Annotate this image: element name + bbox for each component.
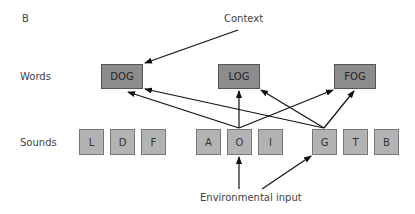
sound-node-o: O xyxy=(227,129,252,155)
panel-label: B xyxy=(22,13,29,24)
connection-arrows xyxy=(0,0,415,214)
row-label-sounds: Sounds xyxy=(20,137,57,148)
context-label: Context xyxy=(224,13,263,24)
arrow-env-to-g xyxy=(262,156,311,189)
row-label-words: Words xyxy=(20,71,51,82)
arrow-o-to-fog xyxy=(239,90,333,128)
arrow-context-to-dog xyxy=(145,30,238,63)
sound-node-l: L xyxy=(79,129,104,155)
sound-node-f: F xyxy=(141,129,166,155)
sound-node-d: D xyxy=(110,129,135,155)
environmental-input-label: Environmental input xyxy=(200,192,302,203)
arrow-g-to-dog xyxy=(145,89,324,128)
word-node-dog: DOG xyxy=(101,64,143,89)
word-node-fog: FOG xyxy=(334,64,376,89)
sound-node-g: G xyxy=(312,129,337,155)
arrow-g-to-fog xyxy=(324,91,354,128)
sound-node-i: I xyxy=(258,129,283,155)
sound-node-t: T xyxy=(343,129,368,155)
sound-node-b: B xyxy=(374,129,399,155)
word-node-log: LOG xyxy=(218,64,260,89)
sound-node-a: A xyxy=(196,129,221,155)
arrow-g-to-log xyxy=(261,90,324,128)
